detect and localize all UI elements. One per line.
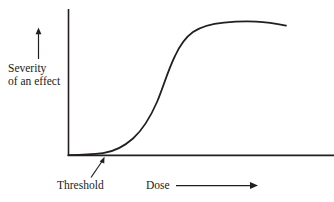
- threshold-label: Threshold: [57, 179, 104, 192]
- arrow-pointer-icon: [91, 157, 105, 178]
- dose-response-curve: [69, 21, 286, 155]
- y-axis-label-line2: of an effect: [8, 75, 60, 88]
- y-axis-label: Severity of an effect: [8, 62, 60, 88]
- up-arrow-icon: [36, 28, 42, 60]
- dose-response-chart: [0, 0, 334, 202]
- right-arrow-icon: [176, 182, 258, 189]
- y-axis-label-line1: Severity: [8, 62, 46, 74]
- x-axis-label: Dose: [146, 179, 170, 192]
- dose-response-figure: Severity of an effect Threshold Dose: [0, 0, 334, 202]
